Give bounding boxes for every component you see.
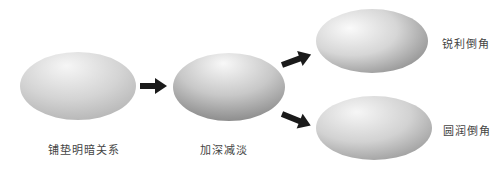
ellipse-sharp-bevel xyxy=(316,9,428,73)
arrow-up-right-icon xyxy=(279,47,314,73)
arrow-down-right-icon xyxy=(279,107,314,133)
label-sharp-bevel: 锐利倒角 xyxy=(442,35,490,51)
label-base-shading: 铺垫明暗关系 xyxy=(48,141,120,157)
ellipse-base-shading xyxy=(20,52,136,120)
label-dodge-burn: 加深减淡 xyxy=(200,141,248,157)
arrow-right-icon xyxy=(140,78,167,94)
shading-process-diagram: 铺垫明暗关系 加深减淡 锐利倒角 圆润倒角 xyxy=(0,0,498,175)
ellipse-dodge-burn xyxy=(173,53,285,121)
ellipse-round-bevel xyxy=(316,96,432,160)
label-round-bevel: 圆润倒角 xyxy=(443,122,491,138)
